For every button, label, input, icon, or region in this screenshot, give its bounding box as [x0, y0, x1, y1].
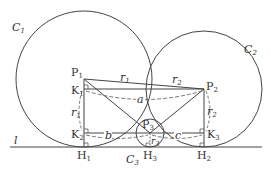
right-angle-k3: [200, 129, 204, 133]
label-p2: P2: [206, 80, 218, 94]
svg-text:H3: H3: [143, 149, 157, 163]
svg-text:P1: P1: [71, 66, 83, 80]
right-angle-k1: [84, 85, 88, 89]
label-r3: r3: [151, 136, 160, 148]
label-r2-side: r2: [207, 105, 217, 119]
label-r2-top: r2: [172, 73, 182, 87]
svg-text:K1: K1: [71, 84, 84, 98]
svg-text:C2: C2: [244, 43, 257, 57]
svg-text:H2: H2: [197, 149, 211, 163]
geometry-diagram: l C1 C2 C3 P1 P2 P3 K1 K2 K3 H1 H2 H3 r1…: [0, 0, 271, 169]
label-a: a: [136, 93, 145, 106]
label-p3: P3: [142, 118, 154, 132]
label-c: c: [174, 129, 182, 142]
label-c1: C1: [12, 21, 25, 35]
label-line-l: l: [14, 134, 18, 147]
label-k3: K3: [207, 128, 220, 142]
svg-text:K2: K2: [71, 128, 84, 142]
label-c3: C3: [126, 153, 139, 167]
right-angle-h1: [84, 143, 88, 147]
label-h1: H1: [77, 149, 91, 163]
segment-p1-p3: [84, 79, 150, 133]
svg-text:K3: K3: [207, 128, 220, 142]
label-b: b: [104, 129, 112, 142]
svg-text:C1: C1: [12, 21, 25, 35]
svg-text:l: l: [14, 134, 18, 147]
svg-text:P3: P3: [142, 118, 154, 132]
segment-p1-p2: [84, 79, 204, 89]
right-angle-k2: [84, 129, 88, 133]
svg-text:r2: r2: [207, 105, 217, 119]
svg-text:r1: r1: [120, 71, 130, 85]
svg-text:c: c: [175, 129, 181, 142]
svg-text:a: a: [137, 93, 144, 106]
label-h3: H3: [143, 149, 157, 163]
label-r1-top: r1: [120, 71, 130, 85]
segment-p2-p3: [150, 89, 204, 133]
label-h2: H2: [197, 149, 211, 163]
svg-text:P2: P2: [206, 80, 218, 94]
label-p1: P1: [71, 66, 83, 80]
svg-text:r3: r3: [151, 136, 160, 148]
svg-text:r2: r2: [172, 73, 182, 87]
label-c2: C2: [244, 43, 257, 57]
label-k2: K2: [71, 128, 84, 142]
label-k1: K1: [71, 84, 84, 98]
svg-text:H1: H1: [77, 149, 91, 163]
svg-text:b: b: [105, 129, 112, 142]
svg-text:C3: C3: [126, 153, 139, 167]
